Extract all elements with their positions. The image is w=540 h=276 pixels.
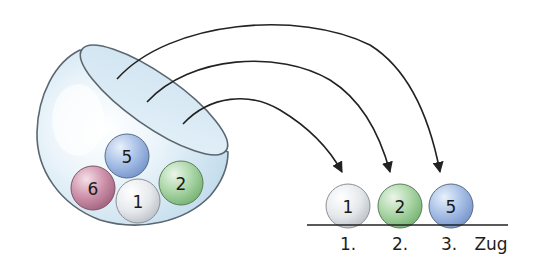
drawn-ball-1: 1 bbox=[326, 184, 370, 228]
ball-number: 1 bbox=[133, 192, 144, 212]
urn-ball-2: 2 bbox=[159, 161, 203, 205]
label-draw-2: 2. bbox=[392, 234, 408, 254]
bowl-highlight bbox=[52, 84, 104, 156]
label-zug: Zug bbox=[474, 234, 507, 254]
drawn-ball-2: 2 bbox=[378, 184, 422, 228]
ball-number: 2 bbox=[395, 197, 406, 217]
urn-ball-5: 5 bbox=[105, 134, 149, 178]
urn-drawing-diagram: 5 6 2 1 1 2 5 bbox=[0, 0, 540, 276]
urn-ball-6: 6 bbox=[71, 166, 115, 210]
drawn-ball-5: 5 bbox=[429, 184, 473, 228]
ball-number: 1 bbox=[343, 197, 354, 217]
draw-labels: 1. 2. 3. Zug bbox=[340, 234, 508, 254]
label-draw-3: 3. bbox=[441, 234, 457, 254]
urn-ball-1: 1 bbox=[116, 179, 160, 223]
drawn-balls: 1 2 5 bbox=[326, 184, 473, 228]
label-draw-1: 1. bbox=[340, 234, 356, 254]
ball-number: 5 bbox=[446, 197, 457, 217]
ball-number: 2 bbox=[176, 174, 187, 194]
ball-number: 6 bbox=[88, 179, 99, 199]
ball-number: 5 bbox=[122, 147, 133, 167]
